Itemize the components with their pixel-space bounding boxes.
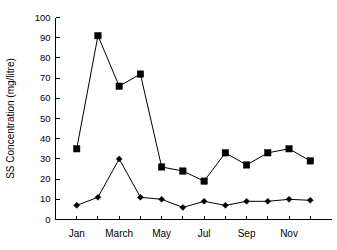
data-point-marker [265,198,271,204]
data-point-marker [74,146,80,152]
y-axis-tick-label: 0 [45,214,50,225]
y-axis-tick-label: 80 [40,52,51,63]
data-point-marker [159,196,165,202]
x-axis-tick-label: Jul [198,228,211,239]
line-chart: 0102030405060708090100JanMarchMayJulSepN… [0,0,337,250]
y-axis-tick-label: 30 [40,153,51,164]
data-point-marker [243,162,249,168]
data-point-marker [180,168,186,174]
y-axis-tick-label: 50 [40,113,51,124]
series-diamond-series [74,156,314,210]
x-axis-tick-label: Sep [238,228,256,239]
y-axis-tick-label: 40 [40,133,51,144]
data-point-marker [222,202,228,208]
y-axis-tick-label: 10 [40,193,51,204]
data-point-marker [116,83,122,89]
series-square-series [74,32,314,184]
data-point-marker [265,150,271,156]
x-axis-tick-label: Nov [280,228,298,239]
data-point-marker [307,158,313,164]
data-point-marker [116,156,122,162]
y-axis-tick-label: 90 [40,32,51,43]
data-point-marker [201,198,207,204]
data-point-marker [95,194,101,200]
data-point-marker [286,146,292,152]
y-axis-tick-label: 60 [40,92,51,103]
y-axis-tick-label: 20 [40,173,51,184]
y-axis-tick-label: 100 [35,12,51,23]
x-axis-tick-label: May [152,228,171,239]
data-point-marker [158,164,164,170]
x-axis-tick-label: March [105,228,133,239]
data-point-marker [137,71,143,77]
chart-figure: 0102030405060708090100JanMarchMayJulSepN… [0,0,337,250]
data-point-marker [137,194,143,200]
data-point-marker [95,32,101,38]
data-point-marker [222,150,228,156]
series-line-square-series [77,36,311,181]
x-axis-tick-label: Jan [69,228,85,239]
data-point-marker [74,202,80,208]
data-point-marker [244,198,250,204]
y-axis-title: SS Concentration (mg/litre) [5,58,16,179]
y-axis-tick-label: 70 [40,72,51,83]
data-point-marker [286,196,292,202]
data-point-marker [307,197,313,203]
data-point-marker [180,204,186,210]
data-point-marker [201,178,207,184]
series-line-diamond-series [77,159,311,207]
